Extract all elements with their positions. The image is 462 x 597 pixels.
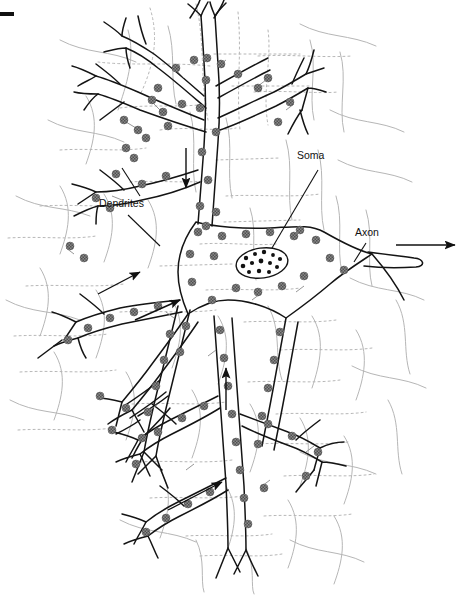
label-axon: Axon bbox=[355, 226, 379, 238]
neuron-illustration: Dendrites Soma Axon bbox=[0, 0, 462, 597]
corner-dash-mark bbox=[0, 12, 14, 16]
up-right-arrow-bottom-dendrite bbox=[168, 482, 222, 510]
neuron-diagram-figure: Dendrites Soma Axon bbox=[0, 0, 462, 597]
right-arrow-upper-left-dendrite bbox=[98, 272, 140, 294]
label-soma: Soma bbox=[297, 149, 325, 161]
label-dendrites: Dendrites bbox=[99, 197, 144, 209]
dendrite-apical-trunk-right bbox=[212, 16, 220, 226]
neuron-membrane-outline bbox=[38, 0, 423, 578]
